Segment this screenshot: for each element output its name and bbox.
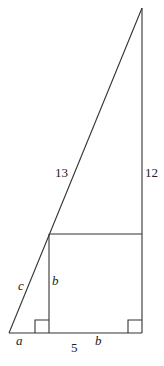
label-a: a xyxy=(16,333,23,348)
label-vertical-leg: 12 xyxy=(145,165,158,180)
label-hypotenuse: 13 xyxy=(55,165,68,180)
right-angle-marker-right xyxy=(128,320,142,333)
label-5: 5 xyxy=(71,340,78,355)
label-b-bottom: b xyxy=(95,333,102,348)
label-c: c xyxy=(18,278,24,293)
triangle-diagram: 13 12 c b a 5 b xyxy=(0,0,164,366)
right-angle-marker-left xyxy=(35,320,49,333)
label-b-vertical: b xyxy=(52,273,59,288)
hypotenuse-line xyxy=(9,8,142,333)
